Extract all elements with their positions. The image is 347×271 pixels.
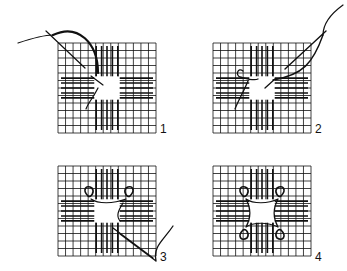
step-label-1: 1 (160, 122, 167, 136)
stitch-diagram (0, 0, 347, 271)
grid-panel-2 (213, 5, 343, 133)
grid-panel-3 (58, 166, 173, 261)
step-label-3: 3 (160, 250, 167, 264)
step-label-4: 4 (315, 250, 322, 264)
step-label-2: 2 (315, 122, 322, 136)
grid-panel-1 (18, 31, 156, 133)
grid-panel-4 (213, 166, 311, 256)
